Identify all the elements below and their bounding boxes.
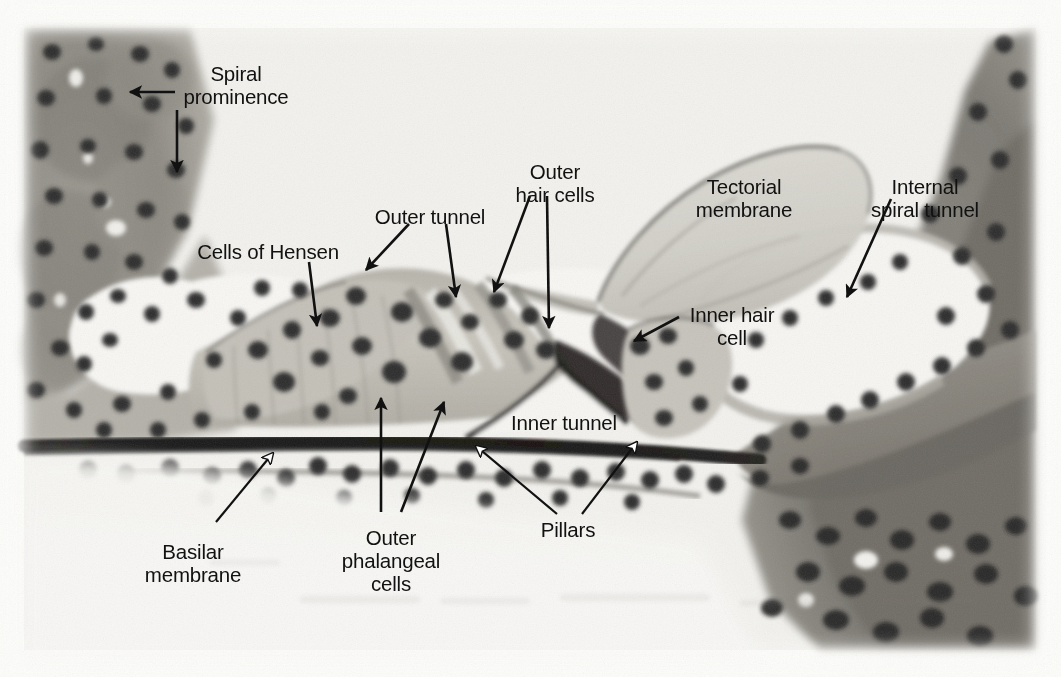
label-spiral-prominence: Spiral prominence bbox=[183, 62, 288, 108]
label-cells-of-hensen: Cells of Hensen bbox=[197, 240, 339, 263]
label-tectorial-membrane: Tectorial membrane bbox=[696, 175, 792, 221]
label-outer-tunnel: Outer tunnel bbox=[375, 205, 485, 228]
label-outer-phalangeal-cells: Outer phalangeal cells bbox=[342, 526, 440, 595]
label-inner-hair-cell: Inner hair cell bbox=[690, 303, 775, 349]
label-internal-spiral-tunnel: Internal spiral tunnel bbox=[871, 175, 979, 221]
label-basilar-membrane: Basilar membrane bbox=[145, 540, 241, 586]
label-pillars: Pillars bbox=[541, 518, 595, 541]
label-inner-tunnel: Inner tunnel bbox=[511, 411, 617, 434]
label-outer-hair-cells: Outer hair cells bbox=[516, 160, 595, 206]
figure-canvas: Spiral prominence Cells of Hensen Outer … bbox=[0, 0, 1061, 677]
